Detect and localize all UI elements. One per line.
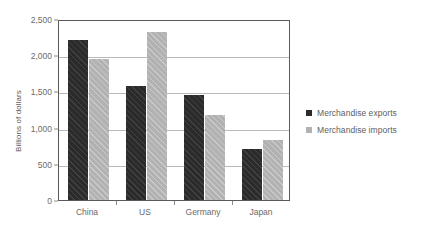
bar-china-imports [89,59,109,200]
x-axis-tick-mark [174,201,175,205]
x-axis-label-china: China [76,207,98,217]
y-axis-tick-label: 0 [18,196,52,206]
y-axis-tick-label: 1,000 [18,124,52,134]
bar-japan-imports [263,140,283,200]
bar-china-exports [68,40,88,200]
bar-us-imports [147,32,167,200]
x-axis-label-us: US [139,207,151,217]
plot-area [58,20,290,201]
bar-germany-imports [205,115,225,200]
legend-label-exports: Merchandise exports [317,108,397,118]
bar-chart: Billions of dollars 05001,0001,5002,0002… [0,0,440,251]
legend-swatch-exports-icon [306,110,312,116]
legend-swatch-imports-icon [306,127,312,133]
bar-germany-exports [184,95,204,200]
y-axis-tick-label: 2,000 [18,51,52,61]
y-axis-tick-label: 500 [18,160,52,170]
x-axis-label-germany: Germany [186,207,221,217]
x-axis-tick-mark [232,201,233,205]
legend-item-imports: Merchandise imports [306,125,436,135]
bar-us-exports [126,86,146,200]
legend-item-exports: Merchandise exports [306,108,436,118]
y-axis-tick-labels: 05001,0001,5002,0002,500 [18,14,52,201]
x-axis-label-japan: Japan [249,207,272,217]
bar-japan-exports [242,149,262,200]
y-axis-tick-label: 1,500 [18,87,52,97]
x-axis-tick-mark [116,201,117,205]
chart-legend: Merchandise exports Merchandise imports [306,108,436,142]
legend-label-imports: Merchandise imports [317,125,397,135]
y-axis-tick-label: 2,500 [18,15,52,25]
x-axis-category-labels: ChinaUSGermanyJapan [58,207,290,223]
bars-layer [59,21,289,200]
